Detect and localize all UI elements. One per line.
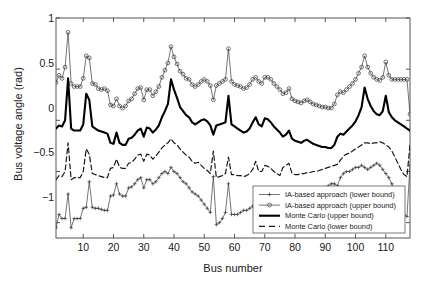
series-line-3 [56, 139, 410, 180]
data-point-marker [87, 180, 91, 184]
x-tick-label: 110 [366, 241, 406, 253]
data-point-marker [78, 217, 82, 221]
chart-figure: 1 0.5 0 −0.5 −1 Bus voltage angle (rad) … [0, 0, 425, 288]
data-point-marker [212, 175, 216, 179]
data-point-marker [124, 194, 128, 198]
data-point-marker [390, 182, 394, 186]
data-point-marker [106, 209, 110, 213]
data-point-marker [227, 182, 231, 186]
y-tick-label: 1 [14, 12, 54, 24]
legend-label: Monte Carlo (lower bound) [285, 222, 373, 231]
data-point-marker [142, 186, 146, 190]
data-point-marker [115, 182, 119, 186]
legend-label: IA-based approach (lower bound) [285, 190, 395, 199]
data-point-marker [63, 217, 67, 221]
x-axis-label: Bus number [56, 262, 410, 274]
y-axis-label: Bus voltage angle (rad) [12, 34, 24, 214]
legend-label: IA-based approach (upper bound) [285, 201, 396, 210]
data-point-marker [54, 226, 58, 230]
data-point-marker [224, 211, 228, 215]
legend-label: Monte Carlo (upper bound) [285, 211, 374, 220]
data-point-marker [66, 192, 70, 196]
series-line-2 [56, 78, 410, 148]
data-point-marker [69, 226, 73, 230]
chart-legend[interactable]: IA-based approach (lower bound)IA-based … [253, 186, 405, 233]
